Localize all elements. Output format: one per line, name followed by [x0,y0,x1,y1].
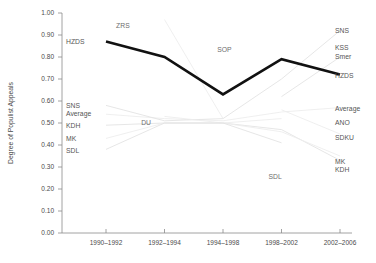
x-tick-label: 1990–1992 [90,239,123,246]
series-line-zrs [165,20,224,119]
inline-series-labels: ZRSSOPDUSDL [116,22,282,181]
right-label-mk: MK [335,158,346,165]
left-series-labels: HZDSSNSAverageKDHMKSDL [66,38,91,154]
y-tick-label: 0.30 [41,163,54,170]
right-label-kss: KSS [335,44,349,51]
right-label-smer: Smer [335,53,352,60]
inline-label-du: DU [141,119,151,126]
y-tick-label: 0.70 [41,75,54,82]
inline-label-zrs: ZRS [116,22,130,29]
series-line-sns [106,31,340,121]
series-line-mk [106,123,340,156]
left-label-sdl: SDL [66,147,79,154]
inline-label-sdl: SDL [269,173,282,180]
y-axis-ticks: 1.000.900.800.700.600.500.400.300.200.10… [41,9,62,236]
line-chart-svg: 1.000.900.800.700.600.500.400.300.200.10… [0,0,376,263]
series-line-sdku [282,110,341,134]
inline-label-sop: SOP [217,46,232,53]
y-tick-label: 0.40 [41,141,54,148]
left-label-kdh: KDH [66,122,80,129]
right-series-labels: SNSKSSSmerHZDSAverageANOSDKUMKKDH [335,27,360,173]
faint-series-group [106,20,340,161]
y-tick-label: 0.20 [41,185,54,192]
right-label-kdh: KDH [335,166,349,173]
y-tick-label: 0.80 [41,53,54,60]
y-tick-label: 0.60 [41,97,54,104]
y-axis-title: Degree of Populist Appeals [7,81,15,164]
y-tick-label: 1.00 [41,9,54,16]
x-tick-label: 2002–2006 [324,239,357,246]
right-label-hzds: HZDS [335,72,354,79]
left-label-mk: MK [66,135,77,142]
y-tick-label: 0.00 [41,229,54,236]
right-label-ano: ANO [335,119,350,126]
left-label-average: Average [66,110,91,118]
left-label-hzds: HZDS [66,38,85,45]
right-label-sdku: SDKU [335,134,354,141]
x-tick-label: 1992–1994 [148,239,181,246]
chart-container: 1.000.900.800.700.600.500.400.300.200.10… [0,0,376,263]
x-tick-label: 1994–1998 [207,239,240,246]
y-tick-label: 0.90 [41,31,54,38]
left-label-sns: SNS [66,102,80,109]
right-label-sns: SNS [335,27,349,34]
series-line-smer [282,57,341,97]
y-tick-label: 0.10 [41,207,54,214]
x-axis-ticks: 1990–19921992–19941994–19981998–20022002… [90,229,357,246]
x-tick-label: 1998–2002 [265,239,298,246]
y-tick-label: 0.50 [41,119,54,126]
right-label-average: Average [335,105,360,113]
